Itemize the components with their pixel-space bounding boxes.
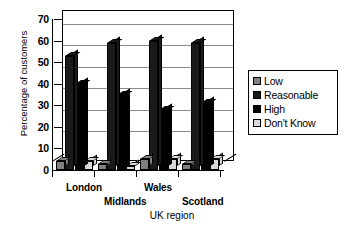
legend-item-low: Low <box>253 74 333 88</box>
bar-low <box>140 159 149 170</box>
plot-area: 010203040506070 LondonMidlandsWalesScotl… <box>52 10 234 170</box>
bar-face <box>65 56 74 170</box>
bar-series-layer <box>52 19 224 170</box>
bar-side <box>84 77 88 166</box>
legend-swatch-icon <box>253 119 261 127</box>
bar-side <box>74 49 78 166</box>
bar-face <box>182 164 191 170</box>
bar-reasonable <box>191 43 200 170</box>
bar-reasonable <box>149 41 158 170</box>
y-tick-label: 70 <box>38 13 49 25</box>
x-axis-title: UK region <box>52 210 292 221</box>
bar-side <box>200 36 204 166</box>
bar-side <box>168 103 172 166</box>
bar-face <box>107 43 116 170</box>
legend-item-don-t-know: Don't Know <box>253 116 333 130</box>
bar-don-t-know <box>126 166 135 170</box>
category-label-midlands: Midlands <box>104 196 147 207</box>
bar-face <box>140 159 149 170</box>
x-tick-mark <box>136 170 137 177</box>
y-tick-label: 20 <box>38 121 49 133</box>
y-axis-title: Percentage of customers <box>18 9 29 159</box>
chart-legend: LowReasonableHighDon't Know <box>248 70 338 135</box>
bar-reasonable <box>107 43 116 170</box>
bar-reasonable <box>65 56 74 170</box>
x-axis-ticks <box>52 170 224 178</box>
bar-group-midlands <box>98 19 136 170</box>
x-tick-mark <box>94 170 95 177</box>
legend-item-high: High <box>253 102 333 116</box>
x-tick-mark <box>52 170 53 177</box>
legend-item-reasonable: Reasonable <box>253 88 333 102</box>
bar-group-london <box>56 19 94 170</box>
bar-face <box>149 41 158 170</box>
x-tick-mark <box>220 170 221 177</box>
legend-swatch-icon <box>253 105 261 113</box>
legend-swatch-icon <box>253 77 261 85</box>
y-tick-label: 30 <box>38 99 49 111</box>
legend-label: High <box>264 103 285 115</box>
x-tick-mark <box>178 170 179 177</box>
bar-low <box>56 161 65 170</box>
legend-label: Don't Know <box>264 117 315 129</box>
y-tick-label: 40 <box>38 78 49 90</box>
y-tick-label: 0 <box>43 164 49 176</box>
bar-group-scotland <box>182 19 220 170</box>
bar-side <box>210 97 214 166</box>
bar-face <box>126 166 135 170</box>
legend-label: Reasonable <box>264 89 318 101</box>
y-tick-label: 60 <box>38 35 49 47</box>
bar-group-wales <box>140 19 178 170</box>
y-tick-label: 50 <box>38 56 49 68</box>
bar-low <box>98 164 107 170</box>
bar-face <box>98 164 107 170</box>
bar-face <box>56 161 65 170</box>
bar-chart: Percentage of customers 010203040506070 … <box>0 0 351 228</box>
bar-side <box>158 34 162 166</box>
bar-side <box>116 36 120 166</box>
legend-swatch-icon <box>253 91 261 99</box>
bar-face <box>191 43 200 170</box>
bar-low <box>182 164 191 170</box>
legend-label: Low <box>264 75 283 87</box>
y-tick-label: 10 <box>38 142 49 154</box>
category-label-wales: Wales <box>144 182 172 193</box>
category-label-scotland: Scotland <box>182 196 223 207</box>
category-label-london: London <box>66 182 102 193</box>
bar-side <box>126 88 130 166</box>
